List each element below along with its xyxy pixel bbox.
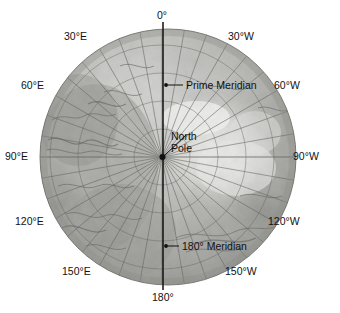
north-pole-label: North Pole [171,131,213,154]
longitude-label-120w: 120°W [268,216,300,227]
longitude-label-60e: 60°E [21,80,44,91]
globe-graphic [0,0,340,313]
north-pole-label-line2: Pole [171,142,192,154]
globe-surface [22,17,312,297]
north-pole-marker [160,154,166,160]
longitude-label-90w: 90°W [293,151,319,162]
meridian-180-label: 180° Meridian [182,241,247,253]
longitude-label-0: 0° [157,10,167,21]
longitude-label-60w: 60°W [274,80,300,91]
longitude-label-90e: 90°E [5,151,28,162]
north-pole-label-line1: North [171,130,197,142]
polar-globe-figure: 0° 30°E 60°E 90°E 120°E 150°E 180° 150°W… [0,0,340,313]
longitude-label-30e: 30°E [64,31,87,42]
longitude-label-180: 180° [152,292,174,303]
prime-meridian-label: Prime Meridian [186,80,257,92]
longitude-label-30w: 30°W [228,31,254,42]
longitude-label-150e: 150°E [62,266,91,277]
longitude-label-150w: 150°W [225,266,257,277]
longitude-label-120e: 120°E [15,216,44,227]
